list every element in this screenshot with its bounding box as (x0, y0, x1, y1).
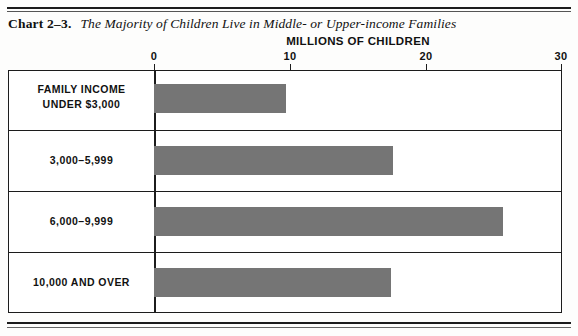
top-rule-thick (7, 7, 571, 9)
x-tick-label-20: 20 (420, 50, 433, 62)
row-label-2: 3,000–5,999 (9, 153, 154, 168)
row-label-1-line2: UNDER $3,000 (9, 97, 154, 112)
row-label-3-line1: 6,000–9,999 (50, 215, 113, 227)
x-tick-label-30: 30 (555, 50, 568, 62)
chart-row: 6,000–9,999 (9, 192, 561, 252)
chart-number: Chart 2–3. (8, 16, 72, 31)
x-tick-label-0: 0 (151, 50, 157, 62)
bottom-rule-thick (7, 322, 571, 324)
chart-page: Chart 2–3.The Majority of Children Live … (0, 0, 578, 336)
row-label-1: FAMILY INCOME UNDER $3,000 (9, 82, 154, 112)
row-label-3: 6,000–9,999 (9, 214, 154, 229)
bar-3 (154, 207, 503, 236)
chart-row: FAMILY INCOME UNDER $3,000 (9, 70, 561, 130)
bar-1 (154, 84, 286, 113)
bar-2 (154, 146, 393, 175)
row-label-2-line1: 3,000–5,999 (50, 154, 113, 166)
chart-title: Chart 2–3.The Majority of Children Live … (8, 14, 570, 32)
bar-4 (154, 268, 391, 297)
chart-row: 3,000–5,999 (9, 131, 561, 191)
row-label-1-line1: FAMILY INCOME (37, 83, 125, 95)
row-label-4-line1: 10,000 AND OVER (33, 276, 130, 288)
top-rule-thin (7, 11, 571, 12)
x-axis-title: MILLIONS OF CHILDREN (154, 35, 562, 47)
chart-row: 10,000 AND OVER (9, 253, 561, 313)
chart-caption: The Majority of Children Live in Middle-… (81, 16, 457, 31)
row-label-4: 10,000 AND OVER (9, 275, 154, 290)
bottom-rule-thin (7, 327, 571, 328)
x-tick-label-10: 10 (284, 50, 297, 62)
